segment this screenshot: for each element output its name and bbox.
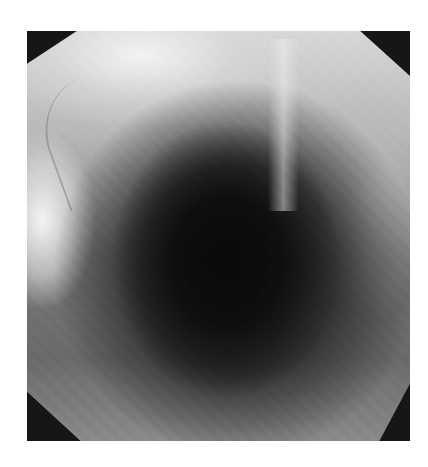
image-texture (27, 31, 410, 441)
endoscopic-view (27, 31, 410, 441)
endoscopy-image-frame (27, 31, 410, 441)
